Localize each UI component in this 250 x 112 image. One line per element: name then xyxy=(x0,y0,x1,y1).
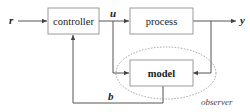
model-label: model xyxy=(148,68,175,79)
output-to-model-arrow xyxy=(193,21,211,73)
process-label: process xyxy=(146,16,178,27)
controller-label: controller xyxy=(53,16,94,27)
control-block-diagram: controller process model r u y b observe… xyxy=(0,0,250,112)
reference-signal-label: r xyxy=(9,14,14,26)
control-to-model-arrow xyxy=(113,21,129,73)
control-signal-label: u xyxy=(110,7,116,19)
observer-label: observer xyxy=(201,97,233,107)
output-signal-label: y xyxy=(238,14,245,26)
feedback-signal-label: b xyxy=(108,90,114,102)
